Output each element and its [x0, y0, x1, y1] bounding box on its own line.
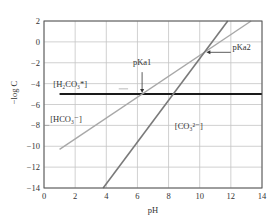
- x-tick-label: 2: [73, 191, 77, 201]
- y-tick-label: −4: [31, 79, 41, 89]
- label-pka2: pKa2: [232, 42, 250, 52]
- y-tick-label: 0: [36, 37, 40, 47]
- label-co3: [CO₃²⁻]: [175, 121, 203, 131]
- x-tick-label: 8: [166, 191, 170, 201]
- y-tick-label: −6: [31, 100, 40, 110]
- y-tick-label: −8: [31, 120, 40, 130]
- label-pka1: pKa1: [133, 57, 151, 67]
- y-tick-label: 2: [36, 16, 40, 26]
- y-tick-label: −2: [31, 58, 40, 68]
- grid: [44, 21, 262, 188]
- y-axis-label: −log C: [9, 80, 19, 104]
- label-h2co3: [H₂CO₃*]: [53, 79, 87, 89]
- x-tick-label: 6: [135, 191, 139, 201]
- x-tick-label: 12: [227, 191, 236, 201]
- x-tick-label: 4: [104, 191, 109, 201]
- y-tick-label: −12: [27, 162, 40, 172]
- y-tick-label: −10: [27, 141, 40, 151]
- x-tick-label: 10: [195, 191, 204, 201]
- label-hco3: [HCO₃⁻]: [50, 114, 82, 124]
- x-tick-label: 0: [42, 191, 46, 201]
- x-axis-label: pH: [148, 205, 158, 215]
- series-line: [60, 21, 252, 149]
- log-concentration-chart: 0246810121420−2−4−6−8−10−12−14 [H₂CO₃*][…: [0, 0, 278, 224]
- y-tick-label: −14: [27, 183, 41, 193]
- x-tick-label: 14: [258, 191, 267, 201]
